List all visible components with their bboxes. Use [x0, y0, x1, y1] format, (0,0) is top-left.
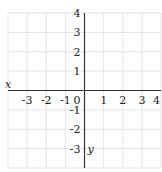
y-tick-label: -2 [70, 123, 81, 136]
x-tick-label: -3 [22, 94, 33, 107]
y-tick-label: 4 [74, 7, 81, 20]
x-axis-label: x [5, 78, 12, 91]
x-tick-label: 2 [119, 94, 126, 107]
y-tick-label: -3 [70, 143, 81, 156]
y-tick-labels: 4321-1-2-3 [70, 7, 81, 156]
y-tick-label: 3 [74, 26, 81, 39]
x-tick-label: -2 [41, 94, 52, 107]
y-tick-label: 2 [74, 46, 81, 59]
x-tick-label: 1 [100, 94, 107, 107]
y-tick-label: -1 [70, 104, 81, 117]
x-tick-label: 4 [153, 94, 160, 107]
x-tick-labels: -3-2-101234 [22, 94, 160, 107]
coordinate-grid: -3-2-101234 4321-1-2-3 x y [0, 0, 162, 172]
x-tick-label: 3 [138, 94, 145, 107]
y-tick-label: 1 [74, 65, 81, 78]
y-axis-label: y [87, 143, 95, 156]
